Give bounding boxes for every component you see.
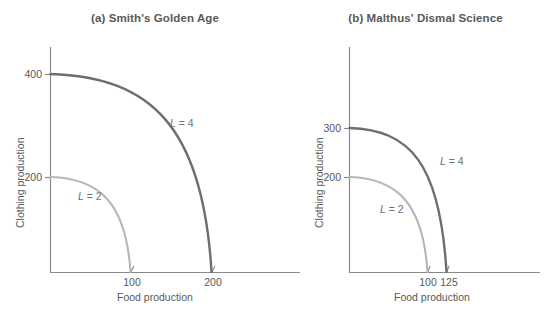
panel-b-curve-label-l4-value: = 4 [446, 155, 464, 167]
panel-a-curve-l4 [51, 74, 212, 272]
panel-malthus-dismal-science: (b) Malthus' Dismal Science 300 200 100 … [300, 0, 545, 317]
panel-a-curve-label-l4: L = 4 [170, 117, 194, 129]
panel-a-curve-label-l2: L = 2 [78, 190, 102, 202]
panel-a-axes [51, 47, 301, 273]
panel-b-curve-l2 [350, 177, 428, 272]
panel-a-curve-label-l4-value: = 4 [176, 117, 194, 129]
panel-a-xtick-label-200: 200 [195, 276, 231, 288]
panel-b-yaxis-title: Clothing production [313, 138, 325, 228]
panel-a-curve-label-l2-value: = 2 [84, 190, 102, 202]
panel-b-curve-label-l4: L = 4 [440, 155, 464, 167]
panel-b-curve-l4 [350, 128, 447, 272]
panel-b-xtick-label-125: 125 [431, 276, 467, 288]
panel-b-curve-label-l2: L = 2 [380, 203, 404, 215]
panel-a-xaxis-title: Food production [117, 291, 193, 303]
panel-a-ytick-label-400: 400 [14, 68, 42, 80]
panel-a-yaxis-title: Clothing production [14, 138, 26, 228]
panel-b-ytick-label-300: 300 [313, 122, 341, 134]
panel-b-curve-label-l2-value: = 2 [386, 203, 404, 215]
panel-a-plot [0, 0, 310, 317]
panel-smiths-golden-age: (a) Smith's Golden Age 400 200 100 200 F… [0, 0, 310, 317]
panel-a-xtick-label-100: 100 [114, 276, 150, 288]
panel-b-xaxis-title: Food production [394, 291, 470, 303]
panel-b-plot [300, 0, 545, 317]
figure-container: (a) Smith's Golden Age 400 200 100 200 F… [0, 0, 545, 317]
